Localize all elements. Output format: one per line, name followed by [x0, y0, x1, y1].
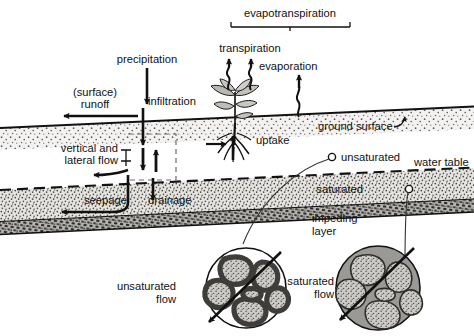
- saturated-marker-icon: [405, 185, 412, 192]
- vertical-lateral-flow-label-line1: vertical and: [61, 142, 118, 154]
- soil-water-diagram: evapotranspiration precipitation infiltr…: [0, 0, 474, 336]
- unsaturated-flow-label-line1: unsaturated: [117, 280, 176, 292]
- uptake-label: uptake: [256, 134, 290, 146]
- saturated-label: saturated: [316, 183, 363, 195]
- evaporation-label: evaporation: [259, 60, 317, 72]
- unsaturated-marker-icon: [328, 153, 335, 160]
- diagram-canvas: evapotranspiration precipitation infiltr…: [0, 0, 474, 336]
- impeding-layer-label-line2: layer: [312, 225, 337, 237]
- unsaturated-label: unsaturated: [341, 151, 400, 163]
- vertical-lateral-flow-label-line2: lateral flow: [65, 154, 119, 166]
- evapotranspiration-label: evapotranspiration: [244, 7, 336, 19]
- impeding-layer-label-line1: impeding: [312, 212, 357, 224]
- unsaturated-flow-label-line2: flow: [156, 293, 177, 305]
- saturated-flow-label-line2: flow: [314, 288, 335, 300]
- surface-runoff-label-line1: (surface): [73, 86, 117, 98]
- seepage-label: seepage: [84, 194, 127, 206]
- surface-runoff-label-line2: runoff: [81, 98, 110, 110]
- transpiration-label: transpiration: [219, 42, 281, 54]
- water-table-label: water table: [413, 156, 469, 168]
- precipitation-label: precipitation: [117, 53, 177, 65]
- infiltration-label: infiltration: [148, 95, 196, 107]
- ground-surface-label: ground surface: [318, 120, 393, 132]
- saturated-flow-label-line1: saturated: [287, 275, 334, 287]
- drainage-label: drainage: [148, 194, 192, 206]
